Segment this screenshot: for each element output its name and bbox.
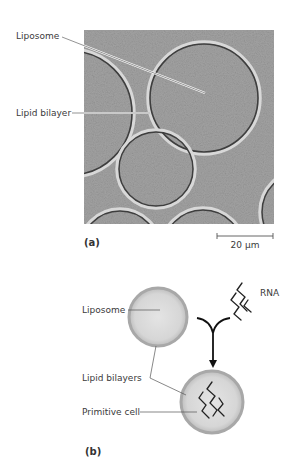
micrograph <box>6 30 298 292</box>
liposome-diagram <box>129 288 187 346</box>
label-rna: RNA <box>260 288 280 298</box>
primitive-cell-diagram <box>181 371 243 433</box>
scale-bar-label: 20 μm <box>231 240 260 250</box>
rna-icon <box>231 283 251 320</box>
arrow-head-icon <box>209 360 217 368</box>
label-primitive-cell: Primitive cell <box>82 407 140 417</box>
panel-b-label: (b) <box>85 446 101 457</box>
label-lipid-bilayers: Lipid bilayers <box>82 373 142 383</box>
label-lipid-bilayer-a: Lipid bilayer <box>16 108 71 118</box>
label-liposome-a: Liposome <box>16 31 60 41</box>
label-liposome-b: Liposome <box>82 305 126 315</box>
panel-a-label: (a) <box>84 237 100 248</box>
scale-bar <box>217 233 273 239</box>
merge-arrow <box>197 318 230 362</box>
liposome-figure: Liposome Lipid bilayer 20 μm (a) RNA <box>0 0 298 462</box>
